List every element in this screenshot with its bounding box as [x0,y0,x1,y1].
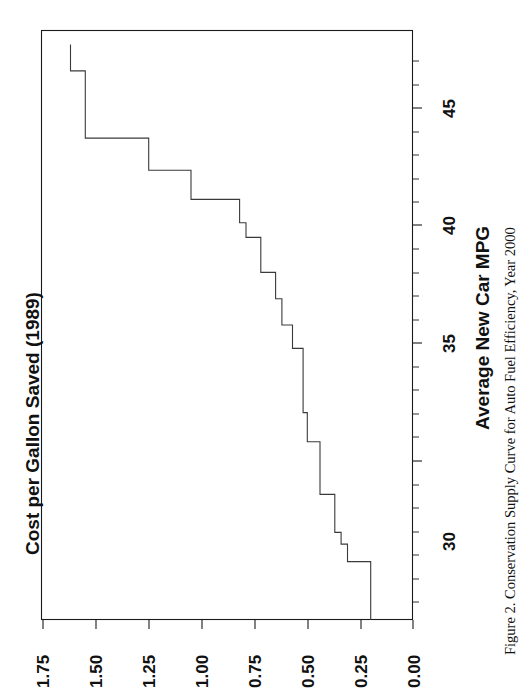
cost-tick-label-1-75: 1.75 [34,655,54,688]
cost-tick-label-1-25: 1.25 [140,655,160,688]
cost-tick-label-0-25: 0.25 [352,655,372,688]
mpg-tick-label-35: 35 [440,334,460,353]
cost-axis-ticks [43,620,413,629]
figure-caption: Figure 2. Conservation Supply Curve for … [502,227,519,655]
supply-curve-step-line [71,45,371,620]
mpg-tick-label-30: 30 [440,532,460,551]
mpg-axis-minor-ticks [413,61,419,602]
cost-tick-label-1-50: 1.50 [87,655,107,688]
y-axis-title: Cost per Gallon Saved (1989) [22,292,44,555]
plot-frame [42,31,413,620]
x-axis-title: Average New Car MPG [472,226,494,430]
cost-tick-label-0-50: 0.50 [299,655,319,688]
mpg-tick-label-40: 40 [440,216,460,235]
mpg-axis-major-ticks [413,108,422,461]
cost-tick-label-1-00: 1.00 [193,655,213,688]
mpg-tick-label-45: 45 [440,99,460,118]
cost-tick-label-0-75: 0.75 [246,655,266,688]
cost-tick-label-0-00: 0.00 [405,655,425,688]
